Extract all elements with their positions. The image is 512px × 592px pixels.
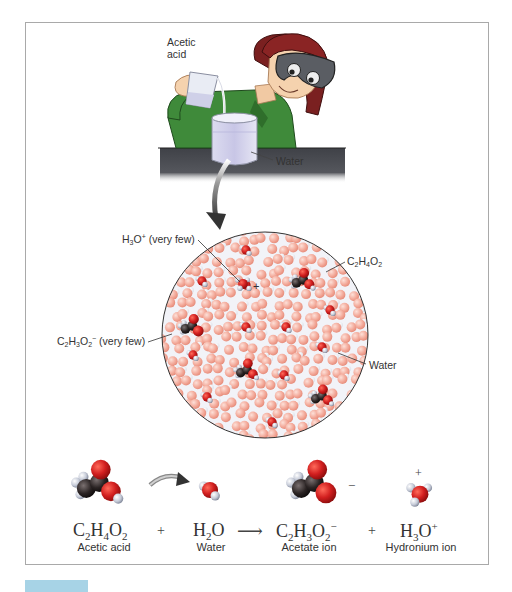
o-symbol: O xyxy=(419,521,432,541)
faded-hydrogen-atom xyxy=(164,223,169,228)
faded-water-molecule xyxy=(368,323,378,333)
faded-water-molecule xyxy=(369,236,379,246)
faded-water-molecule xyxy=(165,298,175,308)
faded-hydrogen-atom xyxy=(178,408,183,413)
faded-hydrogen-atom xyxy=(300,222,305,227)
hydrogen-atom xyxy=(246,328,251,333)
charge-superscript: − xyxy=(331,520,337,532)
faded-water-molecule xyxy=(277,333,287,343)
faded-water-molecule xyxy=(214,267,224,277)
faded-hydrogen-atom xyxy=(308,221,313,226)
faded-water-molecule xyxy=(315,288,325,298)
faded-water-molecule xyxy=(186,297,196,307)
faded-water-molecule xyxy=(316,222,326,232)
faded-water-molecule xyxy=(369,342,379,352)
faded-water-molecule xyxy=(335,310,345,320)
charge-superscript: + xyxy=(432,520,438,532)
faded-water-molecule xyxy=(238,390,248,400)
faded-water-molecule xyxy=(275,391,285,401)
faded-hydrogen-atom xyxy=(382,309,387,314)
faded-water-molecule xyxy=(196,424,206,434)
faded-hydrogen-atom xyxy=(380,396,385,401)
faded-water-molecule xyxy=(307,232,317,242)
o-symbol: O xyxy=(134,233,142,245)
faded-water-molecule xyxy=(277,380,287,390)
faded-water-molecule xyxy=(317,257,327,267)
faded-water-molecule xyxy=(193,222,203,232)
faded-water-molecule xyxy=(226,288,236,298)
faded-hydrogen-atom xyxy=(285,221,290,226)
faded-water-molecule xyxy=(221,432,231,442)
faded-water-molecule xyxy=(302,222,312,232)
faded-water-molecule xyxy=(327,355,337,365)
hydronium-name: Hydronium ion xyxy=(386,541,457,553)
oxygen-atom xyxy=(91,460,111,480)
faded-water-molecule xyxy=(267,400,277,410)
faded-water-molecule xyxy=(247,343,257,353)
water-formula: H2O xyxy=(193,520,225,542)
faded-water-molecule xyxy=(191,266,201,276)
h-symbol: H xyxy=(91,520,104,540)
faded-water-molecule xyxy=(191,366,201,376)
faded-hydrogen-atom xyxy=(384,390,389,395)
faded-water-molecule xyxy=(246,390,256,400)
faded-water-molecule xyxy=(158,291,168,301)
faded-water-molecule xyxy=(364,408,374,418)
faded-water-molecule xyxy=(221,412,231,422)
faded-water-molecule xyxy=(239,342,249,352)
faded-water-molecule xyxy=(237,302,247,312)
charge-superscript: + xyxy=(142,233,146,240)
hydronium-note: (very few) xyxy=(149,233,195,245)
faded-water-molecule xyxy=(364,400,374,410)
equation-molecules xyxy=(71,460,432,507)
faded-water-molecule xyxy=(224,345,234,355)
faded-water-molecule xyxy=(382,232,392,242)
faded-water-molecule xyxy=(347,430,357,440)
acetic-acid-formula: C2H4O2 xyxy=(73,520,128,542)
faded-water-molecule xyxy=(328,268,338,278)
acetic-acid-label: Acetic acid xyxy=(167,36,196,60)
faded-water-molecule xyxy=(379,302,389,312)
faded-water-molecule xyxy=(196,434,206,444)
water-model xyxy=(199,481,220,500)
faded-water-molecule xyxy=(311,419,321,429)
faded-water-molecule xyxy=(379,346,389,356)
faded-water-molecule xyxy=(328,412,338,422)
faded-water-molecule xyxy=(214,278,224,288)
faded-water-molecule xyxy=(373,332,383,342)
faded-water-molecule xyxy=(268,345,278,355)
faded-water-molecule xyxy=(293,302,303,312)
faded-water-molecule xyxy=(371,422,381,432)
faded-water-molecule xyxy=(322,226,332,236)
faded-water-molecule xyxy=(208,344,218,354)
hydrogen-atom xyxy=(310,285,315,290)
h-symbol: H xyxy=(69,335,77,347)
acetate-ion-model xyxy=(286,460,336,503)
o-symbol: O xyxy=(370,255,378,267)
hydrogen-atom xyxy=(211,491,220,500)
oxygen-atom xyxy=(189,314,199,324)
faded-water-molecule xyxy=(232,332,242,342)
acetate-formula: C2H3O2− xyxy=(276,520,337,543)
water-name: Water xyxy=(197,541,226,553)
faded-water-molecule xyxy=(241,265,251,275)
hydrogen-atom xyxy=(284,376,289,381)
faded-water-molecule xyxy=(181,375,191,385)
faded-water-molecule xyxy=(156,397,166,407)
faded-water-molecule xyxy=(271,276,281,286)
faded-water-molecule xyxy=(235,408,245,418)
faded-water-molecule xyxy=(291,311,301,321)
faded-water-molecule xyxy=(329,422,339,432)
h-symbol: H xyxy=(122,233,130,245)
faded-water-molecule xyxy=(355,319,365,329)
faded-water-molecule xyxy=(250,223,260,233)
faded-water-molecule xyxy=(167,223,177,233)
faded-water-molecule xyxy=(172,247,182,257)
faded-water-molecule xyxy=(377,376,387,386)
c-symbol: C xyxy=(73,520,85,540)
oxygen-atom xyxy=(243,358,253,368)
charge-superscript: − xyxy=(92,335,96,342)
faded-water-molecule xyxy=(365,301,375,311)
faded-water-molecule xyxy=(274,288,284,298)
